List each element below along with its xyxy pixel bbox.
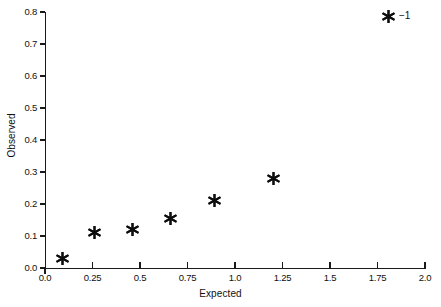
legend: −1	[382, 9, 410, 22]
y-tick-label: 0.1	[24, 230, 37, 241]
scatter-point	[126, 223, 139, 236]
y-axis-title: Observed	[6, 101, 17, 171]
chart-figure: 0.00.10.20.30.40.50.60.70.8 0.00.250.50.…	[0, 0, 441, 307]
x-tick	[282, 262, 283, 268]
x-tick-label: 0.25	[84, 272, 102, 283]
y-tick-label: 0.0	[24, 262, 37, 273]
x-tick-label: 0.0	[39, 272, 52, 283]
scatter-point	[267, 172, 280, 185]
y-tick	[40, 75, 45, 76]
y-tick	[40, 43, 45, 44]
legend-asterisk-icon	[382, 9, 395, 22]
y-tick-label: 0.5	[24, 102, 37, 113]
y-tick-label: 0.2	[24, 198, 37, 209]
y-tick-label: 0.7	[24, 38, 37, 49]
x-axis-line	[45, 268, 426, 269]
y-tick-label: 0.3	[24, 166, 37, 177]
x-tick-label: 2.0	[419, 272, 432, 283]
y-axis-top-cap	[45, 12, 46, 15]
y-tick-label: 0.8	[24, 6, 37, 17]
x-tick-label: 0.75	[179, 272, 197, 283]
x-tick	[139, 262, 140, 268]
x-tick-label: 1.0	[229, 272, 242, 283]
x-tick	[187, 262, 188, 268]
y-tick	[40, 107, 45, 108]
x-axis-title: Expected	[0, 288, 441, 299]
scatter-point	[88, 226, 101, 239]
y-tick	[40, 171, 45, 172]
y-tick	[40, 235, 45, 236]
x-tick	[424, 262, 425, 268]
scatter-point	[56, 252, 69, 265]
scatter-point	[164, 212, 177, 225]
y-tick	[40, 139, 45, 140]
x-tick	[234, 262, 235, 268]
y-tick-label: 0.4	[24, 134, 37, 145]
y-tick	[40, 11, 45, 12]
scan-edge	[0, 303, 441, 307]
scatter-point	[208, 194, 221, 207]
x-tick-label: 0.5	[134, 272, 147, 283]
x-tick-label: 1.25	[274, 272, 292, 283]
x-tick-label: 1.5	[324, 272, 337, 283]
x-tick-label: 1.75	[369, 272, 387, 283]
x-tick	[329, 262, 330, 268]
y-tick-label: 0.6	[24, 70, 37, 81]
y-tick	[40, 203, 45, 204]
y-axis-line	[45, 12, 46, 269]
x-tick	[92, 262, 93, 268]
x-tick	[377, 262, 378, 268]
legend-label: −1	[399, 10, 410, 21]
